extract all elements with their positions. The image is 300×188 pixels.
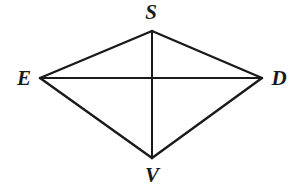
vertex-label-v: V [145,165,159,186]
figure-diagonals [40,31,262,158]
edge-V-E [40,78,152,158]
edge-D-V [152,78,262,158]
vertex-label-d: D [271,68,286,89]
vertex-label-e: E [17,68,31,89]
edge-S-D [152,31,262,78]
geometry-figure: S E D V [0,0,300,188]
vertex-label-s: S [145,2,157,23]
edge-E-S [40,31,152,78]
figure-canvas [0,0,300,188]
